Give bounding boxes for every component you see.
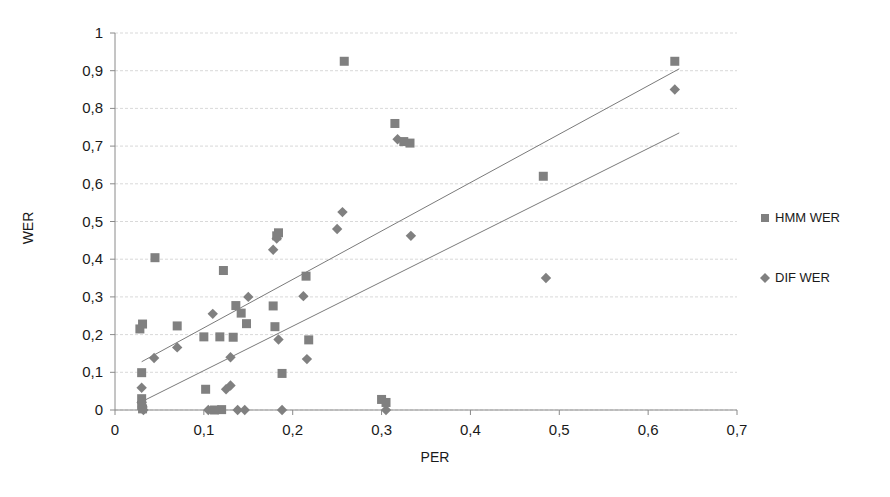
x-tick-label: 0,6 — [638, 421, 659, 438]
data-point-square — [340, 57, 349, 66]
data-point-diamond — [268, 245, 278, 255]
x-tick-label: 0,7 — [727, 421, 748, 438]
data-point-diamond — [240, 405, 250, 415]
data-point-diamond — [208, 309, 218, 319]
data-point-diamond — [670, 84, 680, 94]
y-tick-label: 0,5 — [82, 213, 103, 230]
data-point-square — [237, 309, 246, 318]
y-tick-label: 0,7 — [82, 137, 103, 154]
chart-canvas: 00,10,20,30,40,50,60,7 00,10,20,30,40,50… — [0, 0, 890, 497]
data-point-diamond — [149, 353, 159, 363]
x-tick-label: 0 — [111, 421, 119, 438]
series-dif-wer-points — [136, 84, 680, 415]
data-point-square — [269, 301, 278, 310]
x-axis-title: PER — [421, 449, 450, 465]
legend-label: HMM WER — [775, 210, 840, 225]
data-point-square — [199, 332, 208, 341]
y-tick-label: 1 — [95, 24, 103, 41]
data-point-square — [173, 321, 182, 330]
data-point-square — [670, 57, 679, 66]
data-point-square — [302, 272, 311, 281]
data-point-diamond — [172, 342, 182, 352]
y-tick-label: 0,1 — [82, 363, 103, 380]
data-point-square — [242, 319, 251, 328]
scatter-chart: 00,10,20,30,40,50,60,7 00,10,20,30,40,50… — [0, 0, 890, 497]
data-point-square — [217, 405, 226, 414]
tickmarks-group — [110, 33, 737, 415]
y-tick-label: 0,6 — [82, 175, 103, 192]
data-point-diamond — [302, 354, 312, 364]
data-point-diamond — [273, 334, 283, 344]
data-point-diamond — [277, 405, 287, 415]
data-point-diamond — [541, 273, 551, 283]
data-point-square — [278, 369, 287, 378]
data-point-diamond — [136, 383, 146, 393]
data-point-square — [304, 335, 313, 344]
y-tick-label: 0 — [95, 401, 103, 418]
data-point-diamond — [406, 231, 416, 241]
x-tick-label: 0,3 — [371, 421, 392, 438]
y-tick-label: 0,2 — [82, 326, 103, 343]
data-point-square — [761, 214, 769, 222]
data-point-square — [270, 322, 279, 331]
x-tick-label: 0,5 — [549, 421, 570, 438]
y-tick-label: 0,4 — [82, 250, 103, 267]
x-tick-label: 0,4 — [460, 421, 481, 438]
data-point-square — [229, 333, 238, 342]
x-tick-label: 0,2 — [282, 421, 303, 438]
data-point-diamond — [337, 207, 347, 217]
legend-label: DIF WER — [775, 270, 830, 285]
data-point-diamond — [298, 291, 308, 301]
x-tick-label: 0,1 — [193, 421, 214, 438]
trendline — [142, 69, 680, 362]
gridlines-group — [115, 33, 737, 410]
data-point-square — [137, 368, 146, 377]
data-point-square — [219, 266, 228, 275]
legend: HMM WERDIF WER — [760, 210, 840, 285]
y-tick-labels-group: 00,10,20,30,40,50,60,70,80,91 — [82, 24, 103, 418]
data-point-square — [390, 119, 399, 128]
data-point-square — [201, 385, 210, 394]
data-point-square — [539, 172, 548, 181]
data-point-diamond — [225, 352, 235, 362]
data-point-square — [406, 139, 415, 148]
y-tick-label: 0,9 — [82, 62, 103, 79]
y-axis-title: WER — [20, 212, 36, 245]
data-point-square — [150, 253, 159, 262]
data-point-square — [215, 332, 224, 341]
data-point-square — [138, 320, 147, 329]
y-tick-label: 0,8 — [82, 99, 103, 116]
data-point-diamond — [760, 273, 770, 283]
data-point-diamond — [243, 292, 253, 302]
y-tick-label: 0,3 — [82, 288, 103, 305]
data-point-diamond — [332, 224, 342, 234]
x-tick-labels-group: 00,10,20,30,40,50,60,7 — [111, 421, 748, 438]
